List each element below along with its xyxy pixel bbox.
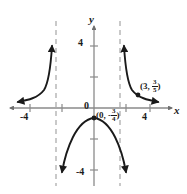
x-axis-label: x xyxy=(174,105,180,116)
x-tick-label-neg4: -4 xyxy=(20,112,28,122)
point-label-b-close: ) xyxy=(158,81,161,91)
point-label-0-neg3over4: (0, -34) xyxy=(96,108,120,124)
y-tick-label-neg4: -4 xyxy=(76,167,84,177)
x-tick-label-4: 4 xyxy=(142,112,147,122)
point-label-a-open: (0, - xyxy=(96,110,111,120)
graph-figure: y x 4 -4 -4 4 0 (0, -34) (3, 35) xyxy=(0,0,187,194)
point-label-b-open: (3, xyxy=(140,81,152,91)
y-tick-label-4: 4 xyxy=(78,38,83,48)
point-label-3-3over5: (3, 35) xyxy=(140,79,161,95)
fraction-3-over-4: 34 xyxy=(111,108,117,124)
graph-canvas xyxy=(0,0,187,194)
fraction-numerator: 3 xyxy=(111,108,117,115)
y-axis-label: y xyxy=(89,14,94,25)
origin-label: 0 xyxy=(84,101,89,111)
curve-left-branch xyxy=(18,46,52,102)
fraction-denominator: 4 xyxy=(111,115,117,123)
fraction-numerator: 3 xyxy=(152,79,158,86)
point-label-a-close: ) xyxy=(117,110,120,120)
fraction-denominator: 5 xyxy=(152,86,158,94)
fraction-3-over-5: 35 xyxy=(152,79,158,95)
